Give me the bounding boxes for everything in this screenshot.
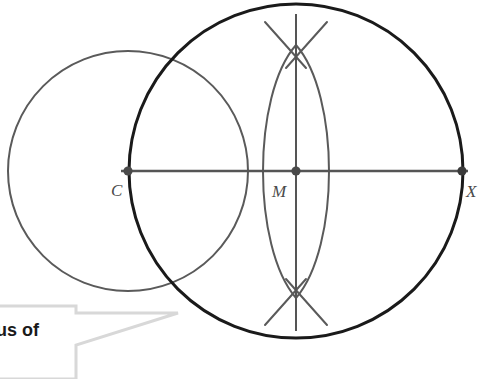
point-label-m: M [272, 183, 286, 200]
callout-box [0, 306, 178, 379]
construction-arc-bottom-right-tick [286, 279, 327, 325]
point-label-x: X [466, 183, 476, 200]
point-dot-m [291, 166, 300, 175]
construction-arc-bottom-left-tick [265, 279, 306, 325]
geometry-figure [0, 0, 486, 379]
point-label-c: C [111, 182, 122, 199]
callout-text: us of [0, 320, 39, 341]
point-dot-x [457, 166, 466, 175]
diagram-canvas: C M X us of [0, 0, 486, 379]
point-dot-c [123, 166, 132, 175]
